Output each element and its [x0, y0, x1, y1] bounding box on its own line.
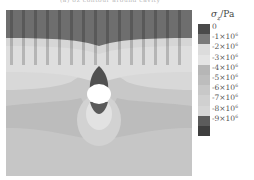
colorbar-block [198, 24, 210, 34]
colorbar-label: -3×106 [212, 53, 238, 63]
colorbar-block [198, 75, 210, 85]
colorbar-labels: 0 -1×106 -2×106 -3×106 -4×106 -5×106 -6×… [212, 22, 238, 124]
colorbar-block [198, 85, 210, 95]
colorbar-block [198, 34, 210, 44]
colorbar-title: σz/Pa [211, 9, 234, 21]
colorbar-label: -6×106 [212, 83, 238, 93]
colorbar-block [198, 126, 210, 136]
colorbar-block [198, 95, 210, 105]
colorbar-block [198, 65, 210, 75]
colorbar-title-unit: /Pa [220, 9, 234, 19]
colorbar-label: 0 [212, 22, 238, 32]
colorbar-label: -5×106 [212, 73, 238, 83]
colorbar-label: -7×106 [212, 93, 238, 103]
colorbar-block [198, 116, 210, 126]
colorbar-block [198, 106, 210, 116]
colorbar-label: -8×106 [212, 104, 238, 114]
colorbar-label: -1×106 [212, 32, 238, 42]
figure-caption: (a) σz contour around cavity [60, 0, 200, 4]
colorbar-block [198, 55, 210, 65]
colorbar-label: -9×106 [212, 114, 238, 124]
contour-plot [6, 10, 192, 176]
colorbar [198, 24, 210, 136]
colorbar-label: -2×106 [212, 42, 238, 52]
colorbar-label: -4×106 [212, 63, 238, 73]
colorbar-block [198, 44, 210, 54]
